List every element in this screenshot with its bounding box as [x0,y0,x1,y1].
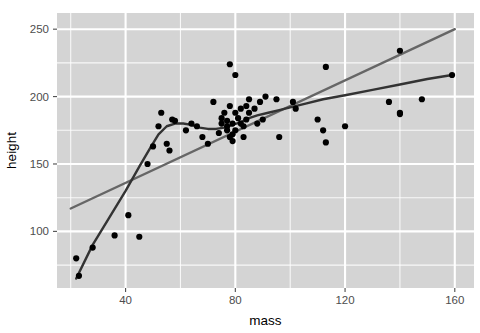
data-point [112,232,118,238]
data-point [155,123,161,129]
data-point [210,99,216,105]
data-point [240,134,246,140]
data-point [246,96,252,102]
y-axis-tick-label: 150 [30,158,49,170]
x-axis: 4080120160 [119,288,464,306]
data-point [227,103,233,109]
data-point [199,134,205,140]
y-axis: 100150200250 [30,23,57,237]
data-point [276,134,282,140]
x-axis-tick-label: 80 [229,294,242,306]
data-point [164,141,170,147]
data-point [397,48,403,54]
scatter-plot: 4080120160 100150200250 mass height [0,0,480,333]
data-point [315,116,321,122]
data-point [188,120,194,126]
data-point [205,141,211,147]
data-point [183,127,189,133]
data-point [419,96,425,102]
data-point [251,106,257,112]
data-point [229,120,235,126]
data-point [125,212,131,218]
data-point [229,138,235,144]
data-point [73,255,79,261]
data-point [254,120,260,126]
data-point [76,273,82,279]
data-point [235,115,241,121]
data-point [323,139,329,145]
data-point [219,120,225,126]
panel-background-group [57,13,474,288]
data-point [136,234,142,240]
plot-panel-background [57,13,474,288]
data-point [224,118,230,124]
data-point [323,64,329,70]
data-point [172,118,178,124]
data-point [90,244,96,250]
data-point [273,96,279,102]
data-point [238,106,244,112]
x-axis-tick-label: 160 [445,294,464,306]
y-axis-tick-label: 250 [30,23,49,35]
data-point [290,99,296,105]
data-point [397,111,403,117]
data-point [386,99,392,105]
data-point [232,72,238,78]
data-point [246,110,252,116]
data-point [166,147,172,153]
data-point [232,110,238,116]
data-point [262,93,268,99]
data-point [194,123,200,129]
data-point [227,61,233,67]
data-point [260,116,266,122]
data-point [257,99,263,105]
data-point [342,123,348,129]
data-point [158,110,164,116]
data-point [150,143,156,149]
data-point [216,130,222,136]
x-axis-tick-label: 40 [119,294,132,306]
y-axis-title: height [4,132,19,169]
data-point [243,116,249,122]
x-axis-tick-label: 120 [335,294,354,306]
data-point [221,110,227,116]
data-point [449,72,455,78]
data-point [293,106,299,112]
data-point [320,127,326,133]
data-point [144,161,150,167]
data-point [232,127,238,133]
data-point [243,103,249,109]
data-point [219,115,225,121]
x-axis-title: mass [249,313,282,328]
chart-container: 4080120160 100150200250 mass height [0,0,480,333]
data-point [240,123,246,129]
y-axis-tick-label: 100 [30,225,49,237]
y-axis-tick-label: 200 [30,91,49,103]
data-point [224,127,230,133]
